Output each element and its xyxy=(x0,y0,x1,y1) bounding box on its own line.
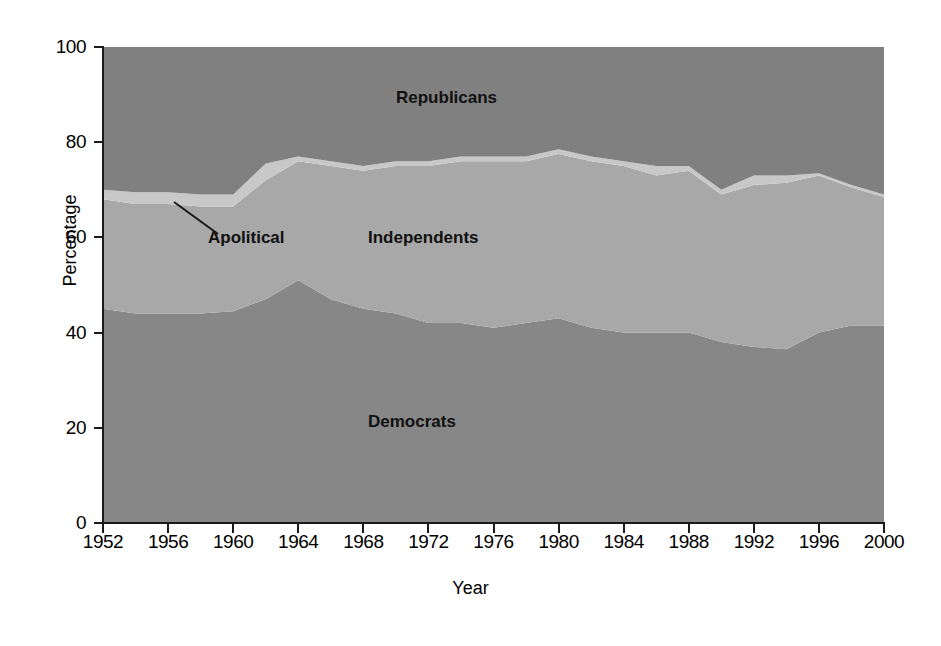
y-tick xyxy=(94,141,103,143)
x-axis-title: Year xyxy=(0,578,941,599)
apolitical-leader-line xyxy=(172,200,220,236)
y-tick-label: 100 xyxy=(48,37,86,56)
chart-container: 020406080100 195219561960196419681972197… xyxy=(0,0,941,646)
x-tick-label: 1992 xyxy=(719,531,789,553)
series-label-independents: Independents xyxy=(368,228,479,248)
x-tick-label: 1972 xyxy=(393,531,463,553)
x-tick-label: 1956 xyxy=(133,531,203,553)
x-tick-label: 1968 xyxy=(328,531,398,553)
series-label-republicans: Republicans xyxy=(396,88,497,108)
series-label-democrats: Democrats xyxy=(368,412,456,432)
x-tick-label: 1988 xyxy=(654,531,724,553)
plot-area xyxy=(103,47,884,523)
y-tick xyxy=(94,427,103,429)
x-tick-label: 1980 xyxy=(524,531,594,553)
y-tick xyxy=(94,236,103,238)
y-axis-line xyxy=(102,46,104,524)
y-tick xyxy=(94,332,103,334)
y-tick-label: 20 xyxy=(48,418,86,437)
x-tick-label: 2000 xyxy=(849,531,919,553)
y-tick-label: 0 xyxy=(48,513,86,532)
y-tick-label: 40 xyxy=(48,323,86,342)
x-tick-label: 1960 xyxy=(198,531,268,553)
x-tick-label: 1964 xyxy=(263,531,333,553)
y-tick-label: 80 xyxy=(48,132,86,151)
x-tick-label: 1952 xyxy=(68,531,138,553)
y-axis-title: Percentage xyxy=(60,161,81,321)
x-tick-label: 1984 xyxy=(589,531,659,553)
x-tick-label: 1996 xyxy=(784,531,854,553)
x-tick-label: 1976 xyxy=(459,531,529,553)
stacked-area-plot xyxy=(103,47,884,523)
y-tick xyxy=(94,46,103,48)
